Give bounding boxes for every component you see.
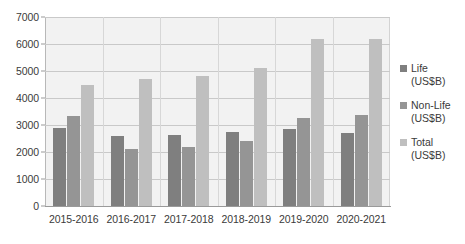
legend-label: Life <box>411 62 428 75</box>
y-axis-tick-label: 2000 <box>16 146 39 158</box>
legend-unit: (US$B) <box>411 112 465 125</box>
bar-life-2019-2020[interactable] <box>283 129 296 206</box>
y-axis-tick-label: 0 <box>33 200 39 212</box>
bar-non-life-2020-2021[interactable] <box>355 115 368 206</box>
x-axis-tick-label: 2020-2021 <box>333 208 391 232</box>
legend-unit: (US$B) <box>411 75 465 88</box>
bar-total-2017-2018[interactable] <box>196 76 209 206</box>
bar-group <box>45 17 103 206</box>
legend-item-total[interactable]: Total(US$B) <box>400 136 465 162</box>
x-axis-tick-label: 2019-2020 <box>275 208 333 232</box>
bar-non-life-2016-2017[interactable] <box>125 149 138 206</box>
bar-non-life-2019-2020[interactable] <box>297 118 310 206</box>
legend-swatch-icon <box>400 102 407 109</box>
legend-item-life[interactable]: Life(US$B) <box>400 62 465 88</box>
y-axis: 70006000500040003000200010000 <box>0 17 45 206</box>
plot-area <box>45 17 390 206</box>
y-axis-tick-label: 5000 <box>16 65 39 77</box>
y-axis-tick-label: 7000 <box>16 11 39 23</box>
bar-life-2015-2016[interactable] <box>53 128 66 206</box>
bar-group <box>160 17 218 206</box>
legend-label: Non-Life <box>411 99 451 112</box>
bar-total-2015-2016[interactable] <box>81 85 94 207</box>
bar-non-life-2015-2016[interactable] <box>67 116 80 206</box>
bar-group <box>275 17 333 206</box>
bar-total-2020-2021[interactable] <box>369 39 382 206</box>
bar-group <box>103 17 161 206</box>
y-axis-tick-label: 4000 <box>16 92 39 104</box>
bar-total-2016-2017[interactable] <box>139 79 152 206</box>
bar-chart: 70006000500040003000200010000 2015-20162… <box>0 0 465 244</box>
bar-life-2018-2019[interactable] <box>226 132 239 206</box>
legend-unit: (US$B) <box>411 149 465 162</box>
bar-life-2016-2017[interactable] <box>111 136 124 206</box>
x-axis-tick-label: 2016-2017 <box>103 208 161 232</box>
bar-group <box>333 17 391 206</box>
bar-total-2019-2020[interactable] <box>311 39 324 206</box>
legend-item-non-life[interactable]: Non-Life(US$B) <box>400 99 465 125</box>
x-axis-tick-label: 2018-2019 <box>218 208 276 232</box>
bar-non-life-2018-2019[interactable] <box>240 141 253 206</box>
y-axis-tick-label: 1000 <box>16 173 39 185</box>
bar-life-2020-2021[interactable] <box>341 133 354 206</box>
chart-legend: Life(US$B)Non-Life(US$B)Total(US$B) <box>400 62 465 173</box>
y-axis-tick-label: 3000 <box>16 119 39 131</box>
y-axis-tick-label: 6000 <box>16 38 39 50</box>
legend-swatch-icon <box>400 139 407 146</box>
legend-label: Total <box>411 136 433 149</box>
x-axis-tick-label: 2015-2016 <box>45 208 103 232</box>
bar-group <box>218 17 276 206</box>
x-axis-tick-label: 2017-2018 <box>160 208 218 232</box>
bar-total-2018-2019[interactable] <box>254 68 267 207</box>
bar-groups <box>45 17 390 206</box>
x-axis-line <box>45 206 391 207</box>
bar-non-life-2017-2018[interactable] <box>182 147 195 206</box>
legend-swatch-icon <box>400 65 407 72</box>
x-axis: 2015-20162016-20172017-20182018-20192019… <box>45 208 390 232</box>
bar-life-2017-2018[interactable] <box>168 135 181 206</box>
